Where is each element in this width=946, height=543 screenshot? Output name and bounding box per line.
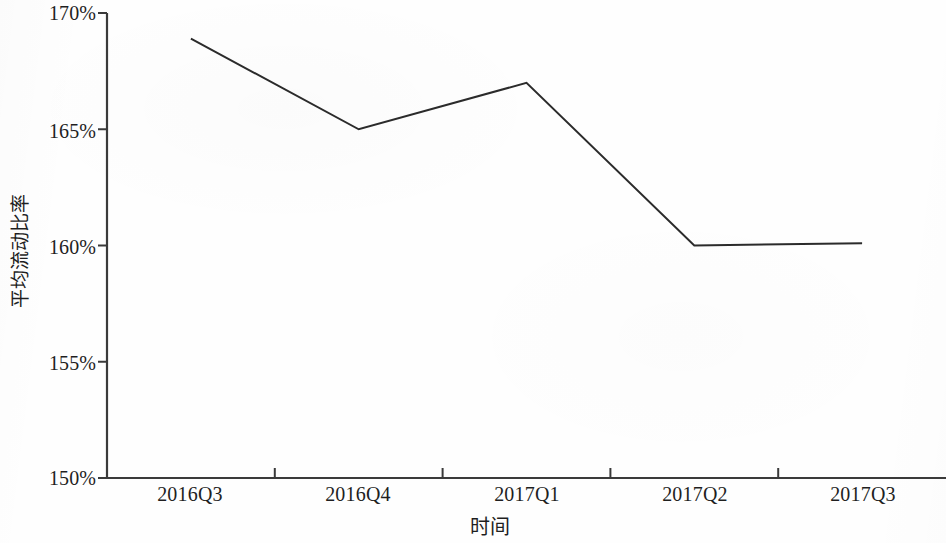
y-axis-title: 平均流动比率	[5, 181, 32, 321]
line-chart-plot	[0, 0, 946, 543]
y-tick-label-165: 165%	[18, 120, 96, 143]
x-tick-label-2017q1: 2017Q1	[467, 483, 587, 506]
y-axis-ticks	[98, 13, 107, 478]
x-axis-ticks	[275, 468, 778, 478]
data-series-line	[191, 39, 862, 246]
x-tick-label-2016q3: 2016Q3	[130, 483, 250, 506]
y-tick-label-155: 155%	[18, 352, 96, 375]
x-tick-label-2017q2: 2017Q2	[635, 483, 755, 506]
chart-container: 170% 165% 160% 155% 150% 2016Q3 2016Q4 2…	[0, 0, 946, 543]
y-tick-label-150: 150%	[18, 467, 96, 490]
x-tick-label-2017q3: 2017Q3	[803, 483, 923, 506]
x-tick-label-2016q4: 2016Q4	[298, 483, 418, 506]
y-tick-label-170: 170%	[18, 2, 96, 25]
x-axis-title: 时间	[430, 511, 550, 540]
